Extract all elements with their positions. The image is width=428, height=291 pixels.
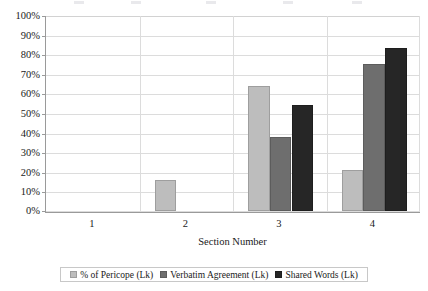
bar-group [234, 16, 328, 211]
y-axis-tick-mark [42, 55, 46, 56]
chart-legend: % of Pericope (Lk)Verbatim Agreement (Lk… [60, 267, 368, 282]
bar [270, 137, 292, 211]
y-axis-tick-mark [42, 153, 46, 154]
artifact-mark [74, 1, 84, 4]
y-axis-tick-mark [42, 173, 46, 174]
legend-item[interactable]: Shared Words (Lk) [275, 270, 357, 280]
bar-group [47, 16, 141, 211]
y-axis-tick-mark [42, 75, 46, 76]
y-axis-tick-mark [42, 192, 46, 193]
bar [385, 48, 407, 211]
legend-swatch-icon [160, 271, 167, 278]
plot-area [45, 16, 420, 213]
y-axis-tick-mark [42, 36, 46, 37]
y-axis-tick-label: 90% [0, 31, 40, 41]
y-axis-tick-mark [42, 114, 46, 115]
y-axis-tick-label: 100% [0, 11, 40, 21]
artifact-mark [352, 1, 362, 4]
artifact-mark [283, 1, 293, 4]
bar-group [328, 16, 422, 211]
y-axis-tick-labels: 0%10%20%30%40%50%60%70%80%90%100% [0, 16, 45, 213]
legend-item[interactable]: Verbatim Agreement (Lk) [160, 270, 268, 280]
artifact-mark [131, 1, 141, 4]
y-axis-tick-label: 60% [0, 89, 40, 99]
bar [155, 180, 177, 211]
bar [363, 64, 385, 211]
x-axis-tick-label: 2 [139, 218, 233, 230]
artifact-mark [206, 1, 216, 4]
bar [292, 105, 314, 211]
y-axis-tick-label: 50% [0, 109, 40, 119]
bar [248, 86, 270, 211]
gridline-horizontal [46, 211, 420, 212]
y-axis-tick-label: 80% [0, 50, 40, 60]
legend-label: Shared Words (Lk) [285, 270, 357, 280]
y-axis-tick-label: 70% [0, 70, 40, 80]
bar [342, 170, 364, 211]
x-axis-tick-label: 4 [326, 218, 420, 230]
bars-layer [47, 16, 420, 211]
legend-label: % of Pericope (Lk) [80, 270, 153, 280]
legend-swatch-icon [275, 271, 282, 278]
y-axis-tick-label: 20% [0, 168, 40, 178]
x-axis-tick-label: 3 [232, 218, 326, 230]
x-axis-tick-label: 1 [45, 218, 139, 230]
top-edge-artifact [0, 0, 428, 5]
y-axis-tick-mark [42, 16, 46, 17]
legend-swatch-icon [70, 271, 77, 278]
legend-item[interactable]: % of Pericope (Lk) [70, 270, 153, 280]
y-axis-tick-mark [42, 134, 46, 135]
y-axis-tick-label: 40% [0, 129, 40, 139]
y-axis-tick-mark [42, 94, 46, 95]
legend-label: Verbatim Agreement (Lk) [170, 270, 268, 280]
y-axis-tick-label: 30% [0, 148, 40, 158]
bar-group [141, 16, 235, 211]
x-axis-title: Section Number [45, 236, 420, 247]
y-axis-tick-label: 0% [0, 206, 40, 216]
y-axis-tick-mark [42, 211, 46, 212]
x-axis-tick-labels: 1234 [45, 218, 420, 232]
bar-chart: 0%10%20%30%40%50%60%70%80%90%100% 1234 S… [0, 0, 428, 291]
y-axis-tick-label: 10% [0, 187, 40, 197]
